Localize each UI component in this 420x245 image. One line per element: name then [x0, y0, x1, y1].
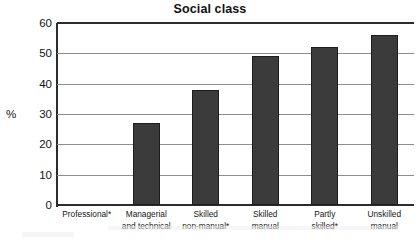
y-tick-label-60: 60: [26, 17, 52, 29]
bar-chart: Social class 0102030405060 Professional*…: [0, 0, 420, 245]
bar-5[interactable]: [371, 35, 398, 205]
gridline-0: [57, 204, 414, 206]
x-label-line1: Partly: [314, 209, 335, 219]
y-axis-tick-labels: 0102030405060: [20, 23, 52, 205]
gridline-60: [57, 22, 414, 24]
y-tick-label-40: 40: [26, 78, 52, 90]
gridline-30: [57, 114, 414, 115]
y-tick-label-10: 10: [26, 169, 52, 181]
plot-area: [57, 23, 414, 205]
bar-1[interactable]: [133, 123, 160, 205]
scan-artifact: [108, 226, 398, 230]
x-label-line1: Skilled: [253, 209, 277, 219]
chart-title: Social class: [0, 2, 420, 16]
bar-3[interactable]: [252, 56, 279, 205]
x-label-line1: Managerial: [126, 209, 167, 219]
bar-2[interactable]: [192, 90, 219, 205]
bar-4[interactable]: [311, 47, 338, 205]
y-tick-label-20: 20: [26, 138, 52, 150]
x-label-line1: Skilled: [194, 209, 218, 219]
y-tick-label-30: 30: [26, 108, 52, 120]
y-tick-label-50: 50: [26, 47, 52, 59]
x-label-line1: Professional*: [62, 209, 111, 219]
y-tick-label-0: 0: [26, 199, 52, 211]
y-axis-label: %: [6, 108, 16, 120]
gridline-40: [57, 84, 414, 85]
gridline-20: [57, 144, 414, 145]
x-label-line1: Unskilled: [367, 209, 401, 219]
gridline-10: [57, 175, 414, 176]
gridline-50: [57, 53, 414, 54]
scan-artifact: [22, 232, 74, 237]
